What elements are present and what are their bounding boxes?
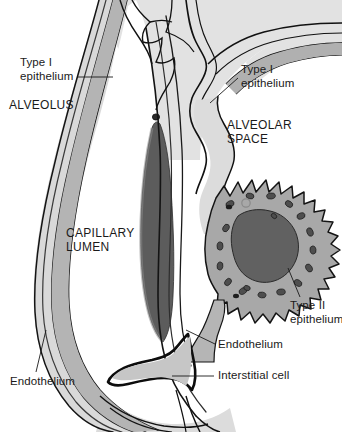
label-endothelium-left: Endothelium (10, 375, 75, 389)
figure-canvas: Type I epithelium ALVEOLUS Type I epithe… (0, 0, 342, 432)
dark-granule-lower (233, 294, 239, 298)
label-type-i-epithelium-left: Type I epithelium (20, 56, 73, 83)
type2-nucleus (231, 210, 298, 283)
label-alveolus: ALVEOLUS (9, 99, 74, 113)
label-endothelium-right: Endothelium (218, 338, 283, 352)
label-interstitial-cell: Interstitial cell (218, 369, 289, 383)
label-alveolar-space: ALVEOLAR SPACE (227, 119, 292, 146)
label-type-i-epithelium-right: Type I epithelium (241, 63, 294, 90)
label-type-ii-epithelium: Type II epithelium (290, 299, 342, 326)
label-capillary-lumen: CAPILLARY LUMEN (66, 227, 135, 254)
dark-granule-upper (226, 205, 232, 210)
